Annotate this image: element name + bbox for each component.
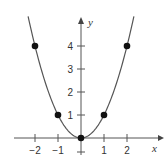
x-tick-label: 1: [101, 145, 107, 156]
x-axis-label: x: [151, 142, 157, 154]
x-tick-label: 2: [124, 145, 130, 156]
parabola-chart: x y −2−112 1234: [0, 0, 168, 165]
data-point: [124, 43, 131, 50]
y-tick-label: 2: [67, 87, 73, 98]
y-tick-label: 1: [67, 110, 73, 121]
data-point: [55, 112, 62, 119]
x-tick-label: −1: [52, 145, 64, 156]
y-axis-arrow-icon: [78, 17, 84, 24]
y-tick-label: 4: [67, 41, 73, 52]
x-axis-arrow-icon: [158, 135, 164, 141]
data-point: [101, 112, 108, 119]
y-axis-label: y: [87, 16, 93, 28]
data-point: [78, 135, 85, 142]
data-point: [32, 43, 39, 50]
y-tick-label: 3: [67, 64, 73, 75]
x-tick-label: −2: [29, 145, 41, 156]
